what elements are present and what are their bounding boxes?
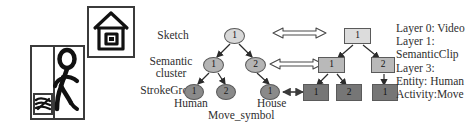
- video-node-semanticclip-2[interactable]: 2: [371, 57, 395, 73]
- human-running-sketch-icon: [32, 47, 83, 118]
- figure-canvas: Sketch Semantic cluster StrokeGroup: [0, 0, 468, 125]
- leaf-caption-human: Human: [174, 98, 208, 110]
- hierarchy-label-semantic-line2: cluster: [156, 67, 187, 79]
- leaf-caption-move-symbol: Move_symbol: [208, 110, 274, 122]
- layer1-correspondence-arrow: [270, 59, 323, 69]
- video-node-activity-move[interactable]: 2: [336, 84, 362, 101]
- human-running-sketch-panel: [30, 45, 85, 120]
- hierarchy-label-semantic-line1: Semantic: [150, 55, 193, 67]
- sketch-node-root[interactable]: 1: [224, 28, 245, 44]
- layer-legend: Layer 0: Video Layer 1: SemanticClip Lay…: [396, 22, 468, 101]
- layer0-correspondence-arrow: [273, 28, 326, 38]
- hierarchy-label-sketch: Sketch: [137, 30, 209, 42]
- video-node-entity-human[interactable]: 1: [303, 84, 329, 101]
- sketch-node-semantic-1[interactable]: 1: [203, 57, 224, 73]
- legend-line-2: SemanticClip: [396, 48, 468, 61]
- video-node-root[interactable]: 1: [344, 28, 371, 44]
- legend-line-5: Activity:Move: [396, 88, 468, 101]
- house-sketch-icon: [89, 8, 133, 56]
- house-sketch-panel: [87, 6, 135, 58]
- hierarchy-label-semantic-cluster: Semantic cluster: [132, 56, 210, 79]
- sketch-node-semantic-2[interactable]: 2: [245, 57, 266, 73]
- legend-line-1: Layer 1:: [396, 35, 468, 48]
- legend-line-0: Layer 0: Video: [396, 22, 468, 35]
- legend-line-3: Layer 3:: [396, 62, 468, 75]
- video-node-semanticclip-1[interactable]: 1: [318, 57, 345, 73]
- sketch-node-strokegroup-move[interactable]: 2: [216, 84, 236, 100]
- leaf-caption-house: House: [257, 98, 286, 110]
- video-node-entity-house[interactable]: 1: [372, 84, 398, 101]
- legend-line-4: Entity: Human: [396, 75, 468, 88]
